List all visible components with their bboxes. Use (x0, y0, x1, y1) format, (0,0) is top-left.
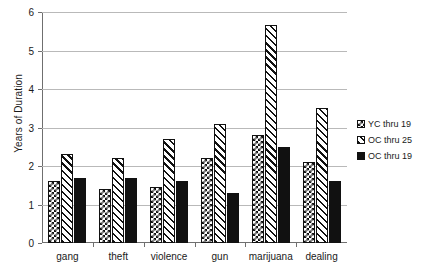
y-tick-mark (38, 205, 42, 206)
bar-violence-yc-thru-19 (150, 187, 162, 243)
x-axis-label-theft: theft (93, 251, 144, 262)
bar-dealing-oc-thru-25 (316, 108, 328, 243)
bar-theft-oc-thru-19 (125, 178, 137, 243)
bar-theft-yc-thru-19 (99, 189, 111, 243)
y-tick-label: 0 (10, 238, 34, 249)
y-tick-mark (38, 243, 42, 244)
y-tick-label: 6 (10, 7, 34, 18)
bar-marijuana-yc-thru-19 (252, 135, 264, 243)
plot-area: 0123456 (42, 12, 347, 243)
gridline (42, 51, 347, 52)
x-group-separator (93, 243, 94, 247)
x-axis-label-dealing: dealing (296, 251, 347, 262)
bar-gang-oc-thru-19 (74, 178, 86, 243)
bar-gang-yc-thru-19 (48, 181, 60, 243)
legend-item-yc-thru-19[interactable]: YC thru 19 (357, 116, 427, 132)
x-axis-label-gang: gang (42, 251, 93, 262)
gridline (42, 205, 347, 206)
bar-marijuana-oc-thru-19 (278, 147, 290, 243)
bar-violence-oc-thru-25 (163, 139, 175, 243)
bar-theft-oc-thru-25 (112, 158, 124, 243)
x-group-separator (296, 243, 297, 247)
bar-gun-oc-thru-25 (214, 124, 226, 243)
legend-item-oc-thru-19[interactable]: OC thru 19 (357, 148, 427, 164)
legend-swatch-icon (357, 120, 365, 128)
chart-legend: YC thru 19OC thru 25OC thru 19 (357, 116, 427, 164)
legend-label: YC thru 19 (368, 120, 411, 129)
y-tick-mark (38, 166, 42, 167)
gridline (42, 166, 347, 167)
legend-label: OC thru 25 (368, 136, 412, 145)
bar-violence-oc-thru-19 (176, 181, 188, 243)
bar-marijuana-oc-thru-25 (265, 25, 277, 243)
legend-label: OC thru 19 (368, 152, 412, 161)
bar-dealing-yc-thru-19 (303, 162, 315, 243)
y-tick-mark (38, 89, 42, 90)
x-group-separator (144, 243, 145, 247)
x-group-separator (245, 243, 246, 247)
y-tick-mark (38, 51, 42, 52)
x-group-separator (195, 243, 196, 247)
y-tick-label: 3 (10, 122, 34, 133)
bar-chart: Years of Duration 0123456 gangtheftviole… (0, 0, 428, 275)
x-axis-label-violence: violence (144, 251, 195, 262)
legend-swatch-icon (357, 152, 365, 160)
y-tick-label: 2 (10, 161, 34, 172)
y-tick-label: 1 (10, 199, 34, 210)
gridline (42, 128, 347, 129)
y-tick-label: 5 (10, 45, 34, 56)
y-tick-mark (38, 128, 42, 129)
legend-item-oc-thru-25[interactable]: OC thru 25 (357, 132, 427, 148)
bar-gun-yc-thru-19 (201, 158, 213, 243)
x-axis-label-gun: gun (195, 251, 246, 262)
y-tick-label: 4 (10, 84, 34, 95)
gridline (42, 12, 347, 13)
bar-dealing-oc-thru-19 (329, 181, 341, 243)
y-tick-mark (38, 12, 42, 13)
legend-swatch-icon (357, 136, 365, 144)
bar-gang-oc-thru-25 (61, 154, 73, 243)
x-axis-label-marijuana: marijuana (245, 251, 296, 262)
gridline (42, 89, 347, 90)
bar-gun-oc-thru-19 (227, 193, 239, 243)
